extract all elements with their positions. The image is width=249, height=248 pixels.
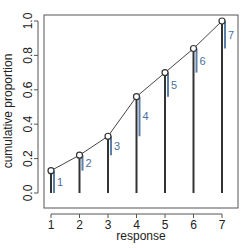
connector-line <box>165 49 194 73</box>
y-tick-label: 0.8 <box>21 47 35 64</box>
data-point <box>162 70 168 76</box>
point-label: 7 <box>228 29 234 41</box>
plot-frame <box>44 15 238 208</box>
point-label: 3 <box>114 140 120 152</box>
connector-line <box>108 97 137 137</box>
data-point <box>48 168 54 174</box>
point-label: 6 <box>200 55 206 67</box>
cumulative-proportion-chart: 0.00.20.40.60.81.0 1234567 1234567 respo… <box>0 0 249 248</box>
point-label: 5 <box>171 79 177 91</box>
point-label: 2 <box>86 157 92 169</box>
connector-line <box>137 73 166 97</box>
x-tick-label: 7 <box>219 218 226 232</box>
y-tick-label: 0.0 <box>21 184 35 201</box>
y-tick-label: 1.0 <box>21 12 35 29</box>
data-point <box>134 94 140 100</box>
x-tick-label: 3 <box>105 218 112 232</box>
x-tick-label: 1 <box>48 218 55 232</box>
connector-line <box>51 155 80 170</box>
connector-line <box>194 21 223 49</box>
point-label: 1 <box>57 176 63 188</box>
data-point <box>105 133 111 139</box>
x-axis-label: response <box>116 229 166 243</box>
data-series: 1234567 <box>48 18 234 193</box>
y-tick-label: 0.2 <box>21 150 35 167</box>
data-point <box>191 46 197 52</box>
point-label: 4 <box>143 110 149 122</box>
connector-line <box>80 136 109 155</box>
x-tick-label: 2 <box>76 218 83 232</box>
y-axis-label: cumulative proportion <box>1 54 15 169</box>
data-point <box>77 152 83 158</box>
x-tick-label: 6 <box>190 218 197 232</box>
data-point <box>219 18 225 24</box>
y-tick-label: 0.6 <box>21 81 35 98</box>
y-axis: 0.00.20.40.60.81.0 <box>21 12 38 201</box>
y-tick-label: 0.4 <box>21 116 35 133</box>
